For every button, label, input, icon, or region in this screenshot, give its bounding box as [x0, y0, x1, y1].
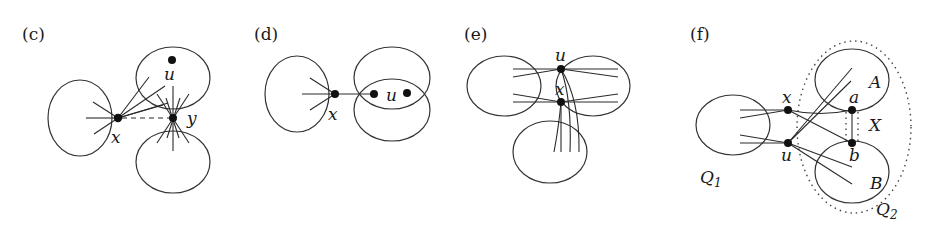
- label-u: u: [555, 45, 566, 65]
- panel-c-label: (c): [22, 24, 45, 44]
- label-u: u: [781, 145, 792, 165]
- panel-e-label: (e): [464, 24, 487, 44]
- label-b: b: [849, 145, 860, 165]
- vertex-a: [848, 106, 856, 114]
- vertex-x: [784, 106, 792, 114]
- label-X: X: [867, 115, 882, 135]
- edge: [788, 68, 852, 143]
- vertex: [370, 90, 378, 98]
- vertex-y: [169, 114, 177, 122]
- label-Q2: Q2: [876, 199, 898, 222]
- edge: [740, 110, 788, 118]
- label-u: u: [386, 85, 397, 105]
- panel-d-label: (d): [254, 24, 278, 44]
- edge: [561, 94, 618, 102]
- vertex-x: [331, 90, 339, 98]
- set-X-dotted-boundary: [797, 41, 911, 213]
- label-y: y: [186, 108, 197, 128]
- cluster-left: [467, 56, 541, 116]
- edge: [561, 69, 618, 77]
- label-Q1: Q1: [700, 167, 722, 190]
- label-x: x: [555, 79, 565, 99]
- edge: [310, 78, 335, 94]
- vertex-u: [557, 65, 565, 73]
- vertex-u: [403, 89, 411, 97]
- cluster-bottom: [513, 121, 587, 183]
- edge: [118, 86, 165, 118]
- label-A: A: [867, 72, 881, 92]
- edge: [513, 69, 561, 77]
- vertex-x: [114, 114, 122, 122]
- cluster-right: [556, 56, 630, 116]
- figure-canvas: (c) x y u (d): [0, 0, 932, 248]
- label-u: u: [164, 64, 175, 84]
- vertex-u: [168, 56, 176, 64]
- edge: [554, 102, 561, 152]
- label-x: x: [328, 104, 338, 124]
- panel-e: (e) u x: [464, 24, 630, 183]
- edge: [93, 102, 118, 118]
- panel-c: (c) x y u: [22, 24, 210, 193]
- label-x: x: [111, 127, 121, 147]
- panel-f-label: (f): [690, 24, 710, 44]
- panel-d: (d) x u: [254, 24, 430, 141]
- label-B: B: [869, 173, 883, 193]
- edge: [118, 105, 163, 118]
- label-a: a: [849, 87, 859, 107]
- panel-f: (f) x u a b A B X Q1 Q2: [690, 24, 911, 222]
- vertex-x: [557, 98, 565, 106]
- cluster-Q1: [696, 95, 770, 155]
- label-x: x: [782, 87, 792, 107]
